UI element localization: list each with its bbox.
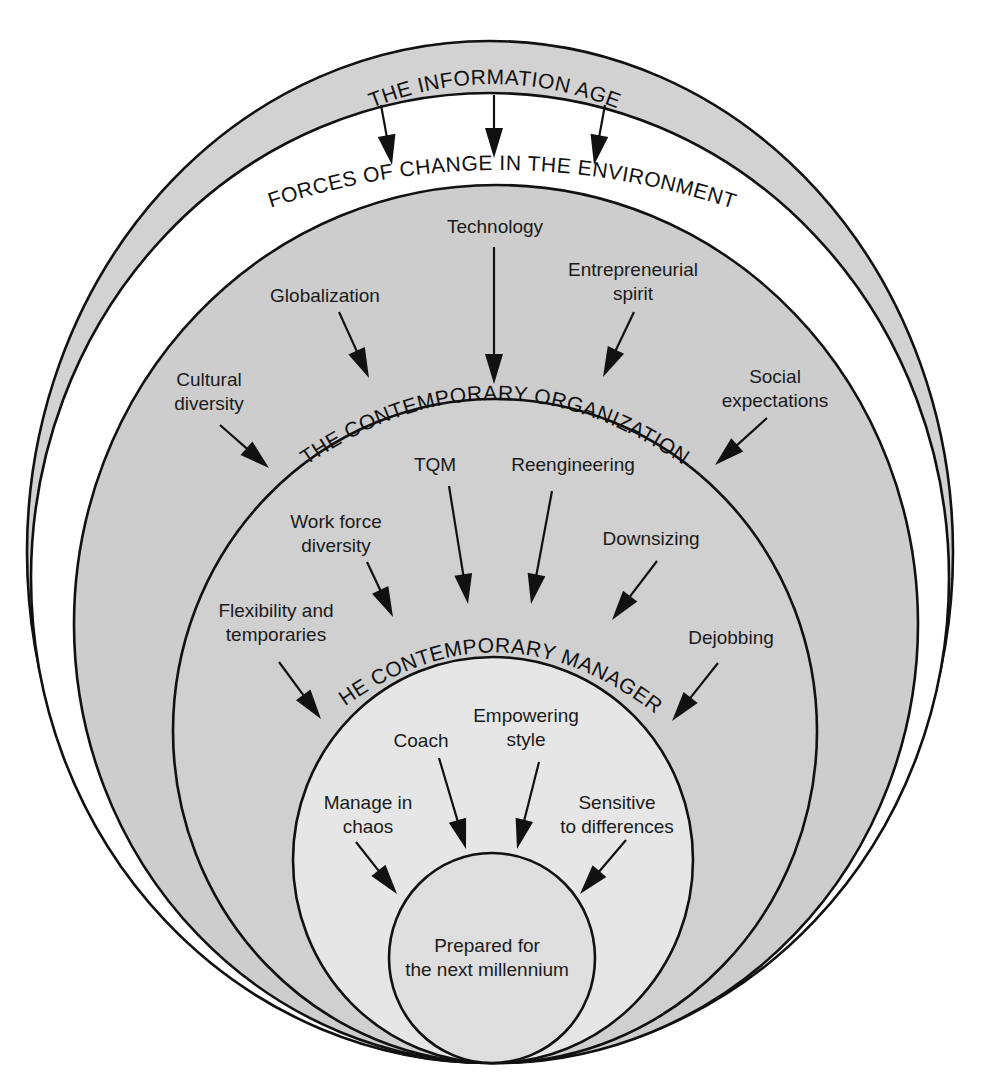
force-globalization: Globalization [270,285,380,306]
trait-coach: Coach [394,730,449,751]
force-downsizing: Downsizing [602,528,699,549]
force-tqm: TQM [414,454,456,475]
concentric-diagram: THE INFORMATION AGE FORCES OF CHANGE IN … [0,0,984,1083]
force-dejobbing: Dejobbing [688,627,774,648]
force-technology: Technology [447,216,544,237]
core-circle [389,853,595,1063]
force-reengineering: Reengineering [511,454,635,475]
